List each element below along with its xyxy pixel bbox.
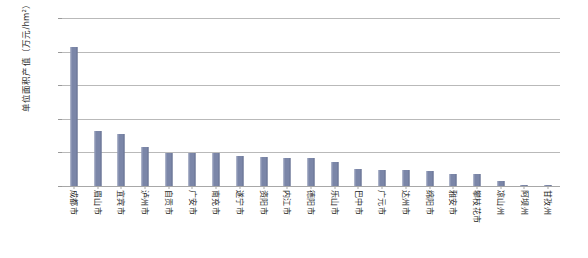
bar [141,147,148,186]
x-axis-category-label: 南充市 [211,190,219,256]
x-axis-tick-mark [144,186,145,189]
bar [284,158,291,186]
bar-slot [418,18,442,186]
bar [165,153,172,186]
bar-slot [181,18,205,186]
bar-slot [465,18,489,186]
x-axis-tick-mark [73,186,74,189]
x-axis-category-label: 宜宾市 [116,190,124,256]
bar-slot [323,18,347,186]
y-axis-title: 单位面积产值（万元/hm²） [19,0,31,141]
x-axis-category-label: 德阳市 [306,190,314,256]
x-axis-category-label: 眉山市 [93,190,101,256]
x-axis-labels-group: 成都市眉山市宜宾市泸州市自贡市广安市南充市遂宁市资阳市内江市德阳市乐山市巴中市广… [62,190,560,256]
x-axis-tick-mark [382,186,383,189]
bar-slot [109,18,133,186]
bar [402,170,409,186]
bar-slot [299,18,323,186]
x-axis-tick-mark [524,186,525,189]
bar-slot [536,18,560,186]
bar-slot [394,18,418,186]
bar [379,170,386,186]
x-axis-category-label: 广元市 [377,190,385,256]
bar-slot [347,18,371,186]
bar [236,156,243,186]
bar [94,131,101,186]
bar-slot [489,18,513,186]
x-axis-category-label: 巴中市 [354,190,362,256]
x-axis-tick-mark [358,186,359,189]
bar [260,157,267,186]
x-axis-category-label: 广安市 [188,190,196,256]
x-axis-tick-mark [287,186,288,189]
bar-slot [204,18,228,186]
x-axis-tick-mark [476,186,477,189]
bar-slot [370,18,394,186]
x-axis-tick-mark [334,186,335,189]
bar-slot [86,18,110,186]
bar [355,169,362,186]
bar-slot [157,18,181,186]
bar [473,174,480,186]
x-axis-tick-mark [500,186,501,189]
x-axis-tick-mark [216,186,217,189]
x-axis-category-label: 甘孜州 [543,190,551,256]
x-axis-tick-mark [97,186,98,189]
bar [450,174,457,186]
x-axis-tick-mark [310,186,311,189]
bar-chart-figure: 单位面积产值（万元/hm²） 0510152025 成都市眉山市宜宾市泸州市自贡… [0,0,588,258]
x-axis-tick-mark [405,186,406,189]
bar-slot [252,18,276,186]
x-axis-tick-mark [263,186,264,189]
bar [331,162,338,186]
bar-slot [133,18,157,186]
x-axis-category-label: 攀枝花市 [472,190,480,256]
x-axis-category-label: 成都市 [69,190,77,256]
bar-slot [62,18,86,186]
bar [426,171,433,186]
x-axis-category-label: 资阳市 [259,190,267,256]
x-axis-category-label: 自贡市 [164,190,172,256]
x-axis-category-label: 遂宁市 [235,190,243,256]
bar [118,134,125,186]
x-axis-tick-mark [239,186,240,189]
y-axis-tick-mark [58,186,62,187]
x-axis-tick-mark [121,186,122,189]
x-axis-tick-mark [548,186,549,189]
bar [189,153,196,186]
x-axis-tick-mark [429,186,430,189]
x-axis-category-label: 阿坝州 [520,190,528,256]
x-axis-category-label: 内江市 [282,190,290,256]
bar-slot [228,18,252,186]
x-axis-category-label: 乐山市 [330,190,338,256]
x-axis-category-label: 绵阳市 [425,190,433,256]
x-axis-tick-mark [453,186,454,189]
x-axis-category-label: 雅安市 [448,190,456,256]
plot-area: 0510152025 [62,18,560,186]
x-axis-category-label: 凉山州 [496,190,504,256]
x-axis-tick-mark [168,186,169,189]
bar [307,158,314,186]
bar-slot [513,18,537,186]
bar-slot [275,18,299,186]
x-axis-category-label: 达州市 [401,190,409,256]
bars-group [62,18,560,186]
bar-slot [441,18,465,186]
x-axis-category-label: 泸州市 [140,190,148,256]
bar [213,153,220,186]
bar [70,47,77,186]
x-axis-tick-mark [192,186,193,189]
